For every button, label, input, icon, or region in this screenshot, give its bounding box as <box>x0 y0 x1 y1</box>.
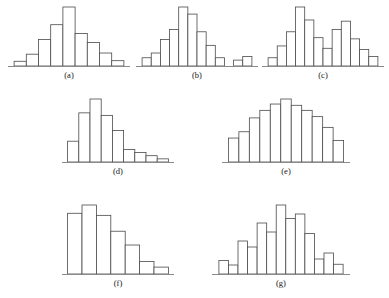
histogram-bar <box>111 231 125 274</box>
histogram-bar <box>82 205 96 274</box>
histogram-bar <box>179 7 188 66</box>
histogram-bar <box>39 39 51 66</box>
histogram-bar <box>239 132 249 162</box>
histogram-bar <box>350 39 359 66</box>
panel-label-c: (c) <box>262 70 384 80</box>
histogram-bar <box>90 99 101 162</box>
histogram-bar <box>170 29 179 66</box>
histogram-figure: (a)(b)(c)(d)(e)(f)(g) <box>0 0 389 298</box>
panel-label-b: (b) <box>136 70 258 80</box>
histogram-bar <box>277 46 286 66</box>
histogram-bar <box>360 49 369 66</box>
histogram-svg-d <box>62 96 174 166</box>
histogram-bar <box>101 115 112 162</box>
histogram-bar <box>281 99 291 162</box>
histogram-bar <box>79 113 90 162</box>
histogram-bar <box>26 54 38 66</box>
histogram-bar <box>302 110 312 162</box>
histogram-bar <box>51 25 63 66</box>
histogram-bar <box>87 42 99 66</box>
histogram-panel-d: (d) <box>62 96 174 176</box>
histogram-bar <box>286 219 296 275</box>
histogram-bar <box>151 53 160 66</box>
histogram-bar <box>314 259 324 274</box>
histogram-svg-c <box>262 4 384 70</box>
histogram-bar <box>146 156 157 162</box>
histogram-bar <box>142 58 151 66</box>
histogram-panel-f: (f) <box>62 202 174 288</box>
histogram-bar <box>260 110 270 162</box>
histogram-bar <box>270 104 280 162</box>
histogram-bar <box>323 48 332 66</box>
histogram-bar <box>314 38 323 66</box>
histogram-bar <box>112 61 124 66</box>
histogram-bar <box>68 213 82 274</box>
histogram-bar <box>219 261 229 275</box>
histogram-bar <box>14 61 26 66</box>
histogram-bar <box>75 34 87 66</box>
histogram-svg-a <box>8 4 130 70</box>
histogram-svg-f <box>62 202 174 278</box>
histogram-bar <box>100 53 112 66</box>
histogram-bar <box>249 118 259 162</box>
histogram-bar <box>276 205 286 274</box>
histogram-bar <box>215 58 224 66</box>
histogram-bar <box>160 39 169 66</box>
histogram-bar <box>291 105 301 162</box>
histogram-bar <box>243 57 252 66</box>
histogram-bar <box>296 7 305 66</box>
histogram-bar <box>68 141 79 162</box>
histogram-bar <box>334 264 344 274</box>
histogram-bar <box>135 153 146 162</box>
histogram-bar <box>238 241 248 274</box>
panel-label-d: (d) <box>62 166 174 176</box>
histogram-bar <box>206 45 215 66</box>
panel-label-e: (e) <box>222 166 350 176</box>
histogram-bar <box>248 247 258 274</box>
histogram-bar <box>257 223 267 274</box>
histogram-panel-g: (g) <box>212 202 350 288</box>
histogram-bar <box>324 253 334 274</box>
histogram-bar <box>295 214 305 274</box>
histogram-svg-e <box>222 96 350 166</box>
histogram-plot-d <box>62 96 174 166</box>
histogram-bar <box>312 117 322 162</box>
panel-label-a: (a) <box>8 70 130 80</box>
histogram-bar <box>140 262 154 274</box>
histogram-svg-g <box>212 202 350 278</box>
histogram-bar <box>323 127 333 162</box>
histogram-bar <box>286 32 295 66</box>
histogram-panel-a: (a) <box>8 4 130 78</box>
histogram-bar <box>305 20 314 66</box>
histogram-bar <box>369 57 378 66</box>
histogram-bar <box>305 234 315 275</box>
histogram-bar <box>228 138 238 162</box>
histogram-plot-b <box>136 4 258 70</box>
histogram-panel-b: (b) <box>136 4 258 78</box>
histogram-plot-a <box>8 4 130 70</box>
histogram-bar <box>267 232 277 274</box>
panel-label-f: (f) <box>62 278 174 288</box>
histogram-panel-e: (e) <box>222 96 350 176</box>
histogram-bar <box>332 29 341 66</box>
histogram-bar <box>333 141 343 162</box>
histogram-plot-e <box>222 96 350 166</box>
panel-label-g: (g) <box>212 278 350 288</box>
histogram-bar <box>125 245 139 274</box>
histogram-bar <box>197 32 206 66</box>
histogram-bar <box>228 265 238 274</box>
histogram-panel-c: (c) <box>262 4 384 78</box>
histogram-plot-f <box>62 202 174 278</box>
histogram-bar <box>112 131 123 163</box>
histogram-plot-c <box>262 4 384 70</box>
histogram-bar <box>157 159 168 162</box>
histogram-plot-g <box>212 202 350 278</box>
histogram-bar <box>63 7 75 66</box>
histogram-bar <box>124 149 135 162</box>
histogram-bar <box>188 14 197 66</box>
histogram-bar <box>268 58 277 66</box>
histogram-bar <box>154 267 168 274</box>
histogram-bar <box>341 21 350 66</box>
histogram-svg-b <box>136 4 258 70</box>
histogram-bar <box>96 215 110 274</box>
